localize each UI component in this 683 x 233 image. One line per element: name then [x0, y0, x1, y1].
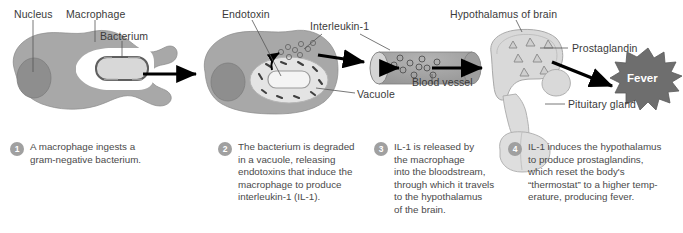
fever-label: Fever — [627, 72, 658, 84]
label-hypothalamus: Hypothalamus of brain — [450, 8, 557, 20]
leader-interleukin-right — [360, 34, 390, 50]
bacterium-1 — [96, 57, 148, 80]
step-badge-3: 3 — [374, 142, 388, 156]
nucleus-2 — [211, 63, 245, 101]
label-vacuole: Vacuole — [357, 88, 395, 100]
label-interleukin-1: Interleukin-1 — [310, 20, 369, 32]
brain-right-lobe — [542, 69, 570, 96]
degraded-bacterium — [268, 71, 310, 88]
step-caption-1: A macrophage ingests a gram-negative bac… — [30, 141, 200, 166]
step-badge-4: 4 — [508, 142, 522, 156]
label-endotoxin: Endotoxin — [222, 8, 270, 20]
step-caption-4: IL-1 induces the hypothalamus to produce… — [528, 141, 678, 204]
nucleus-1 — [17, 58, 51, 98]
step-badge-1: 1 — [10, 142, 24, 156]
label-prostaglandin: Prostaglandin — [572, 42, 638, 54]
step-caption-3: IL-1 is released by the macrophage into … — [394, 141, 514, 217]
label-nucleus: Nucleus — [14, 8, 53, 20]
fever-mechanism-figure: Nucleus Macrophage Bacterium Endotoxin I… — [0, 0, 683, 233]
label-blood-vessel: Blood vessel — [412, 76, 473, 88]
label-macrophage: Macrophage — [66, 8, 125, 20]
label-bacterium: Bacterium — [100, 30, 148, 42]
step-badge-2: 2 — [218, 142, 232, 156]
step-caption-2: The bacterium is degraded in a vacuole, … — [238, 141, 368, 204]
label-pituitary-gland: Pituitary gland — [568, 98, 636, 110]
